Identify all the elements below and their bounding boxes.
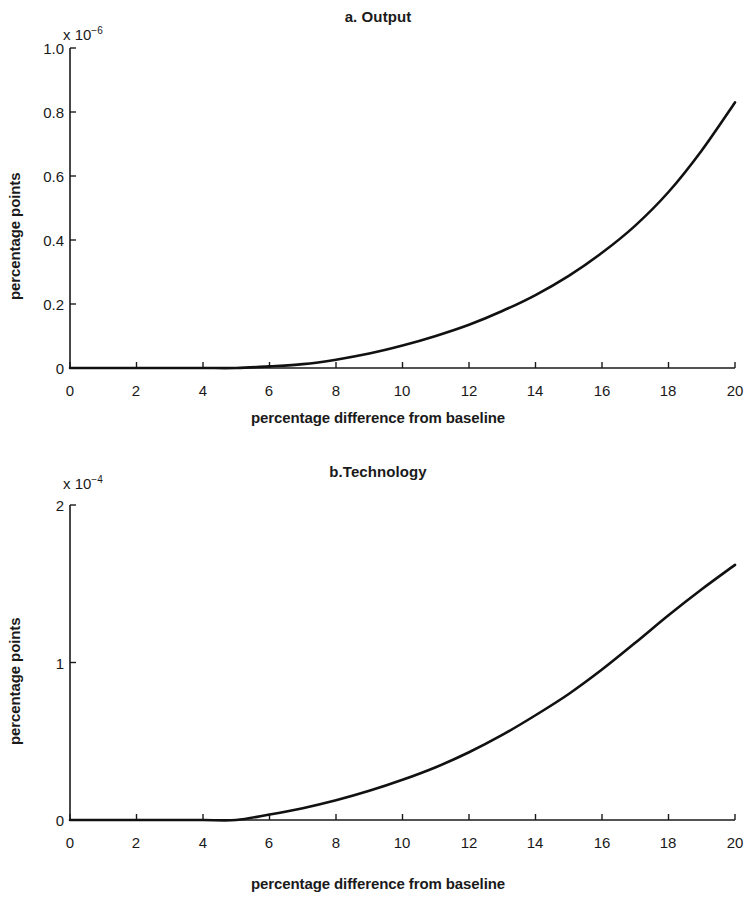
panel-b-tick-marks (70, 505, 735, 820)
chart-panel-output: a. Output x 10−6 percentage points perce… (0, 0, 756, 455)
chart-panel-technology: b.Technology x 10−4 percentage points pe… (0, 455, 756, 910)
panel-a-tick-marks (70, 48, 735, 368)
panel-a-data-line (70, 102, 735, 368)
panel-b-data-line (70, 565, 735, 821)
panel-b-plot-area (0, 455, 756, 910)
panel-a-plot-area (0, 0, 756, 455)
